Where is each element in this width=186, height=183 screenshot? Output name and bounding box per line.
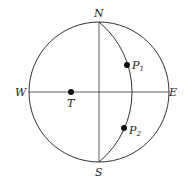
label-east: E [168,86,177,99]
label-south: S [95,166,103,179]
label-p2: P2 [128,124,141,138]
point-p2 [121,125,127,131]
label-north: N [93,7,104,20]
point-p1 [124,62,130,68]
label-p1: P1 [131,59,144,73]
point-t [68,89,74,95]
label-west: W [15,86,28,99]
celestial-diagram: N S W E T P1 P2 [0,0,186,183]
label-t: T [67,97,76,110]
